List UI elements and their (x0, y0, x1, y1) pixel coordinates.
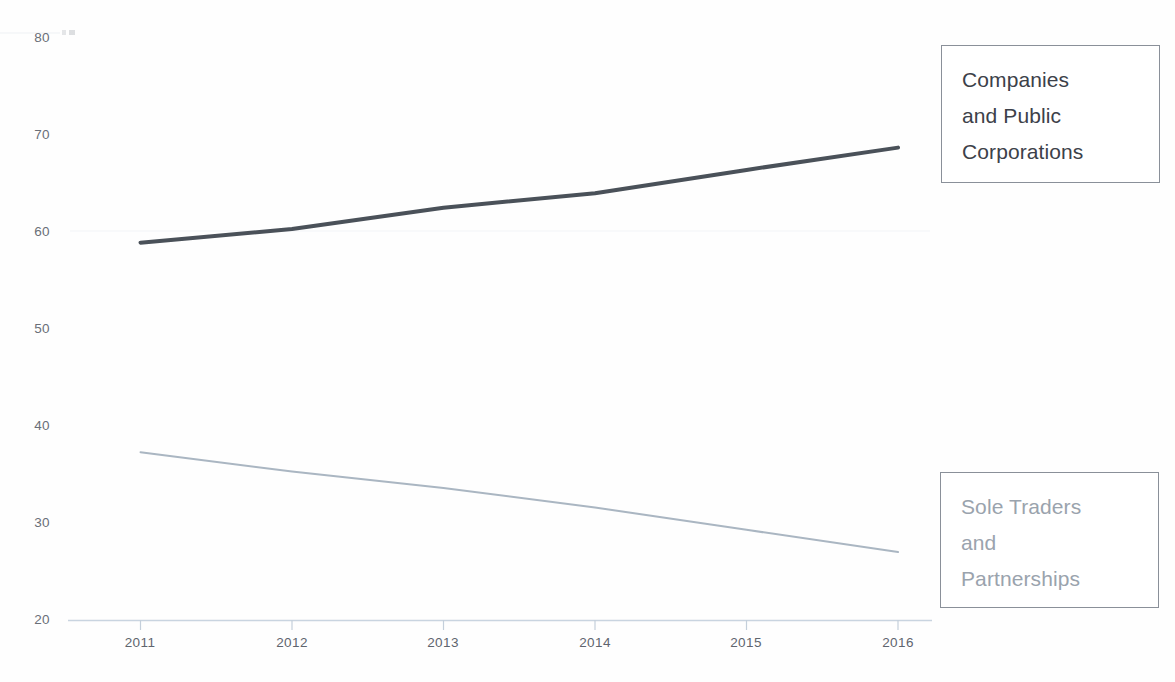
y-tick-label: 40 (10, 419, 50, 433)
y-tick-label: 60 (10, 225, 50, 239)
plot-area: 80 70 60 50 40 30 20 2011 2012 2013 2014… (0, 0, 975, 682)
x-tick-label: 2012 (252, 636, 332, 650)
x-tick-label: 2015 (706, 636, 786, 650)
series-line-sole-traders (141, 452, 899, 552)
legend-label-companies: Companies and Public Corporations (962, 62, 1141, 170)
x-tick-label: 2016 (858, 636, 938, 650)
legend-companies-and-public-corporations: Companies and Public Corporations (941, 45, 1160, 183)
x-tick-label: 2013 (403, 636, 483, 650)
y-tick-label: 20 (10, 613, 50, 627)
y-tick-label: 50 (10, 322, 50, 336)
chart-page: 80 70 60 50 40 30 20 2011 2012 2013 2014… (0, 0, 1175, 682)
x-tick-label: 2014 (555, 636, 635, 650)
legend-label-sole-traders: Sole Traders and Partnerships (961, 489, 1140, 597)
y-tick-label: 30 (10, 516, 50, 530)
legend-sole-traders-and-partnerships: Sole Traders and Partnerships (940, 472, 1159, 608)
y-tick-label: 70 (10, 128, 50, 142)
line-chart-svg (0, 0, 975, 682)
x-axis-ticks (141, 620, 899, 630)
scan-artifact (62, 30, 76, 35)
y-tick-label: 80 (10, 31, 50, 45)
x-tick-label: 2011 (100, 636, 180, 650)
series-line-companies (141, 148, 899, 243)
